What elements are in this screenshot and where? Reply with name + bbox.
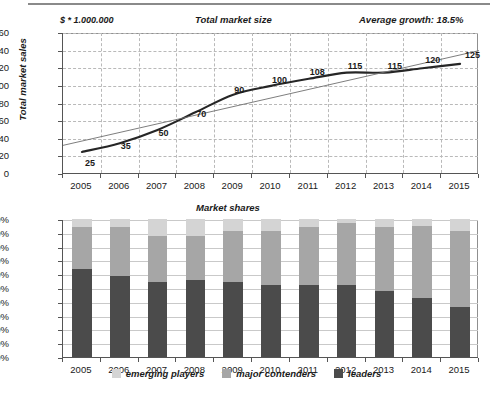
bar-segment-emerging-players [337,219,357,223]
bar-segment-major-contenders [223,231,243,282]
x-tick-mark [478,174,479,178]
y-tick-mark [58,220,62,221]
bar-segment-emerging-players [72,219,92,227]
x-tick-mark [365,358,366,362]
x-tick-mark [478,358,479,362]
x-tick-mark [251,358,252,362]
data-label: 115 [387,61,402,71]
bar-segment-leaders [223,282,243,357]
bar-segment-leaders [148,282,168,357]
average-growth-annotation: Average growth: 18.5% [359,14,464,25]
y-tick-mark [58,330,62,331]
legend-swatch-icon [222,369,231,378]
bar-stack [450,219,470,357]
chart-title: Total market size [195,14,272,25]
bar-segment-major-contenders [337,223,357,285]
market-shares-chart: Market shares 0%10%20%30%40%50%60%70%80%… [0,200,493,396]
y-tick-label: 80 [0,98,9,109]
y-tick-mark [58,139,62,140]
data-label: 50 [159,128,169,138]
bar-segment-emerging-players [375,219,395,227]
bar-segment-major-contenders [375,227,395,290]
x-tick-mark [402,174,403,178]
y-tick-label: 100% [0,214,9,225]
x-tick-mark [327,358,328,362]
y-tick-label: 70% [0,255,9,266]
y-tick-mark [58,51,62,52]
bar-stack [148,219,168,357]
y-tick-mark [58,156,62,157]
y-tick-mark [58,33,62,34]
x-tick-mark [100,174,101,178]
data-label: 100 [272,75,287,85]
y-tick-label: 80% [0,242,9,253]
bar-stack [375,219,395,357]
y-tick-mark [58,104,62,105]
data-label: 120 [425,55,440,65]
y-tick-mark [58,303,62,304]
bar-segment-emerging-players [450,219,470,231]
bar-stack [412,219,432,357]
legend-item-leaders[interactable]: leaders [334,368,381,379]
bar-segment-leaders [186,280,206,357]
y-tick-label: 30% [0,311,9,322]
data-label: 108 [310,67,325,77]
y-tick-label: 90% [0,228,9,239]
bar-stack [299,219,319,357]
legend-item-emerging-players[interactable]: emerging players [112,368,205,379]
y-tick-mark [58,289,62,290]
bar-segment-major-contenders [148,236,168,283]
bar-stack [72,219,92,357]
line-plot-area [62,33,478,174]
x-tick-mark [365,174,366,178]
x-tick-mark [251,174,252,178]
trendline [63,51,479,146]
y-tick-label: 0% [0,352,9,363]
y-tick-mark [58,317,62,318]
total-market-size-chart: $ * 1.000.000 Total market size Average … [0,6,493,198]
x-tick-mark [213,358,214,362]
legend-swatch-icon [112,369,121,378]
bar-plot-area [62,220,478,358]
chart-title: Market shares [196,202,260,213]
bar-stack [261,219,281,357]
x-tick-mark [213,174,214,178]
x-tick-mark [62,358,63,362]
x-tick-mark [175,358,176,362]
bar-segment-leaders [299,285,319,357]
y-tick-label: 0 [0,168,9,179]
y-tick-label: 20% [0,324,9,335]
line-series-svg [63,33,479,174]
data-label: 90 [234,85,244,95]
bar-segment-major-contenders [72,227,92,268]
x-tick-mark [402,358,403,362]
bar-stack [110,219,130,357]
x-tick-mark [100,358,101,362]
y-tick-label: 160 [0,27,9,38]
y-tick-mark [58,121,62,122]
bar-segment-major-contenders [261,231,281,285]
y-axis-title: Total market sales [17,25,28,135]
y-tick-label: 100 [0,80,9,91]
bar-stack [223,219,243,357]
bar-segment-leaders [412,298,432,357]
legend-label: major contenders [236,368,316,379]
y-tick-label: 50% [0,283,9,294]
data-label: 25 [85,158,95,168]
x-tick-mark [289,174,290,178]
bar-segment-leaders [261,285,281,357]
legend-item-major-contenders[interactable]: major contenders [222,368,316,379]
bar-segment-leaders [450,307,470,357]
bar-segment-major-contenders [299,227,319,285]
bar-segment-major-contenders [450,231,470,307]
y-tick-label: 60% [0,269,9,280]
data-label: 35 [121,141,131,151]
data-label: 125 [465,50,480,60]
x-tick-mark [289,358,290,362]
y-tick-label: 10% [0,338,9,349]
data-label: 115 [348,61,363,71]
y-tick-label: 40 [0,133,9,144]
x-tick-mark [327,174,328,178]
bar-segment-emerging-players [110,219,130,227]
legend-swatch-icon [334,369,343,378]
